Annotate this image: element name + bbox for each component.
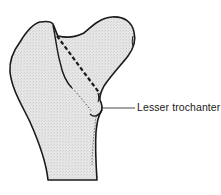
femur-diagram: Lesser trochanter <box>0 0 221 195</box>
femur-outline <box>10 17 135 180</box>
label-lesser-trochanter: Lesser trochanter <box>137 101 220 113</box>
femur-illustration <box>0 0 221 195</box>
